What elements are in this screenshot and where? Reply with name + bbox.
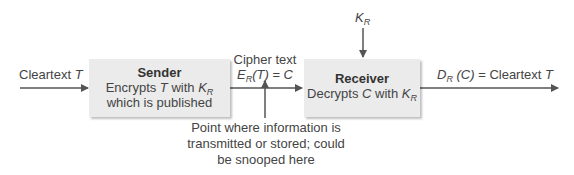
cipher-label-formula: ER(T) = C xyxy=(228,67,302,82)
receiver-line1-a: Decrypts xyxy=(307,86,362,101)
receiver-var: C xyxy=(362,86,371,101)
sender-key: K xyxy=(198,80,207,95)
cipher-arg: (T) xyxy=(252,67,269,82)
cipher-label: Cipher text ER(T) = C xyxy=(228,52,302,82)
receiver-title: Receiver xyxy=(304,71,420,86)
cipher-label-title: Cipher text xyxy=(228,52,302,67)
cipher-eq: = xyxy=(269,67,284,82)
key-label: KR xyxy=(355,10,370,25)
receiver-line1-b: with xyxy=(371,86,401,101)
note-line2: transmitted or stored; could xyxy=(180,136,352,152)
input-label: Cleartext T xyxy=(19,67,83,82)
sender-line1-a: Encrypts xyxy=(106,80,160,95)
sender-title: Sender xyxy=(89,65,230,80)
output-eq: = Cleartext xyxy=(475,67,545,82)
receiver-box: Receiver Decrypts C with KR xyxy=(304,59,420,117)
key-label-k: K xyxy=(355,10,364,25)
output-label: DR (C) = Cleartext T xyxy=(437,67,553,82)
note-line1: Point where information is xyxy=(180,120,352,136)
note-line3: be snooped here xyxy=(180,152,352,168)
input-label-var: T xyxy=(75,67,83,82)
receiver-line1: Decrypts C with KR xyxy=(304,86,420,101)
snoop-note: Point where information is transmitted o… xyxy=(180,120,352,168)
input-label-text: Cleartext xyxy=(19,67,75,82)
cipher-result: C xyxy=(284,67,293,82)
sender-line1: Encrypts T with KR xyxy=(89,80,230,95)
sender-var: T xyxy=(160,80,168,95)
sender-box: Sender Encrypts T with KR which is publi… xyxy=(89,59,230,117)
receiver-key-sub: R xyxy=(410,93,417,103)
output-var: T xyxy=(545,67,553,82)
sender-line1-b: with xyxy=(168,80,198,95)
cipher-fn: E xyxy=(237,67,246,82)
sender-line2: which is published xyxy=(89,95,230,110)
output-fn: D xyxy=(437,67,446,82)
key-label-sub: R xyxy=(364,17,371,27)
output-arg: (C) xyxy=(453,67,475,82)
